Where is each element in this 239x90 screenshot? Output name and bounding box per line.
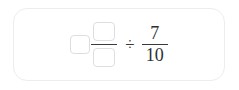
expression-row: ÷ 7 10 xyxy=(14,9,224,80)
expression-card: ÷ 7 10 xyxy=(13,8,225,81)
denominator-input-box[interactable] xyxy=(93,48,115,67)
fraction-bar-input xyxy=(91,44,117,45)
whole-number-input-box[interactable] xyxy=(70,35,90,54)
math-expression-widget: ÷ 7 10 xyxy=(0,0,239,90)
fraction-denominator: 10 xyxy=(146,45,164,65)
fraction-seven-tenths: 7 10 xyxy=(142,24,168,64)
numerator-input-box[interactable] xyxy=(93,22,115,41)
fraction-numerator: 7 xyxy=(150,24,159,44)
fraction-input-group xyxy=(90,22,118,67)
division-sign-icon: ÷ xyxy=(118,36,141,53)
mixed-number-input-group xyxy=(70,22,118,67)
